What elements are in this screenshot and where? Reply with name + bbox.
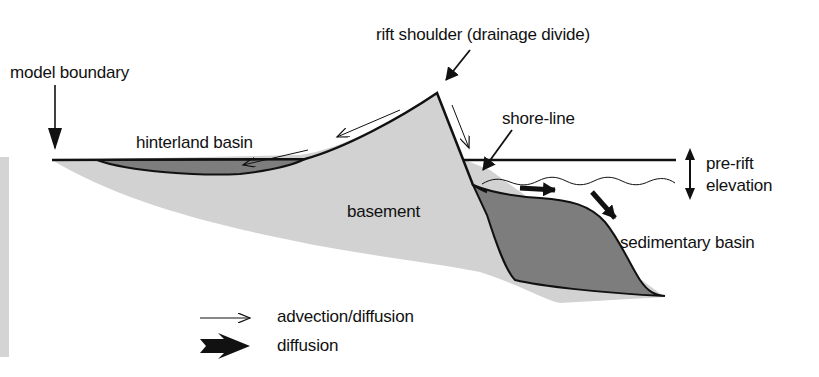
sedimentary-basin-label: sedimentary basin	[620, 234, 755, 251]
hinterland-basin-label: hinterland basin	[136, 134, 253, 151]
diffusion-arrow	[520, 188, 555, 190]
legend-diffusion-label: diffusion	[277, 337, 338, 354]
elevation-label: elevation	[706, 177, 772, 194]
pre-rift-label: pre-rift	[706, 155, 754, 172]
thick-arrow-icon	[200, 333, 250, 359]
legend-advection-label: advection/diffusion	[277, 308, 414, 325]
shore-line-label: shore-line	[502, 110, 575, 127]
down-arrow-icon	[685, 188, 695, 200]
basement-label: basement	[347, 203, 420, 220]
up-arrow-icon	[685, 148, 695, 160]
rift-shoulder-arrow	[446, 50, 470, 80]
rift-shoulder-label: rift shoulder (drainage divide)	[376, 26, 590, 43]
shore-line-arrow	[483, 130, 512, 170]
sea-surface-wave	[482, 177, 675, 185]
model-boundary-label: model boundary	[10, 64, 129, 81]
